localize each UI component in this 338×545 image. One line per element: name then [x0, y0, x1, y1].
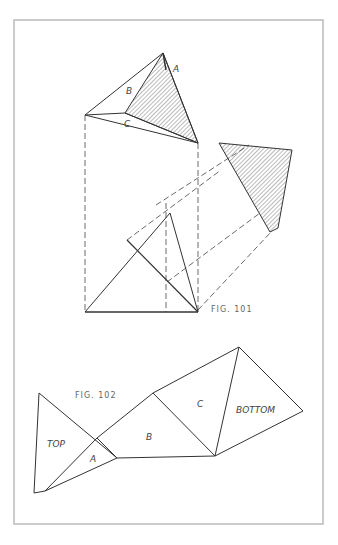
fig-102-caption: FIG. 102: [75, 391, 117, 400]
face-bottom-label: BOTTOM: [236, 405, 275, 415]
fig-101: [85, 53, 292, 312]
top-view: [85, 53, 198, 143]
label-c: C: [124, 119, 131, 129]
face-b-label: B: [146, 432, 152, 442]
projection-lines: [85, 115, 271, 312]
face-c-label: C: [197, 399, 204, 409]
net-outline: [34, 347, 303, 493]
fig-101-caption: FIG. 101: [211, 305, 253, 314]
label-a: A: [172, 64, 179, 74]
front-view: [85, 213, 198, 312]
face-top-label: TOP: [47, 439, 66, 449]
technical-drawing: A B C FIG. 101 FIG. 102 TOP A B C BOTTOM: [0, 0, 338, 545]
drawing-page: A B C FIG. 101 FIG. 102 TOP A B C BOTTOM: [0, 0, 338, 545]
label-b: B: [126, 86, 132, 96]
face-a-label: A: [89, 454, 96, 464]
auxiliary-view: [219, 143, 292, 232]
fig-102: [34, 347, 303, 493]
